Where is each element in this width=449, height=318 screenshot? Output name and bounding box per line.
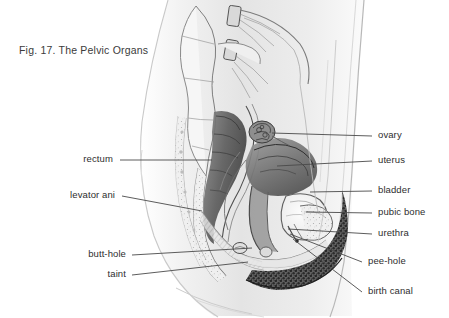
figure-title: Fig. 17. The Pelvic Organs [19,44,148,56]
anus-marker [233,243,247,254]
label-uterus: uterus [378,154,405,165]
vaginal-opening-marker [260,247,272,257]
label-taint: taint [0,268,126,279]
label-pubic-bone: pubic bone [378,206,425,217]
label-urethra: urethra [378,227,409,238]
label-ovary: ovary [378,129,402,140]
label-birth-canal: birth canal [368,285,413,296]
label-pee-hole: pee-hole [368,255,406,266]
pee-hole-marker [295,239,299,243]
label-bladder: bladder [378,184,410,195]
label-rectum: rectum [0,153,113,164]
figure-container: Fig. 17. The Pelvic Organs rectumlevator… [0,0,449,318]
label-levator-ani: levator ani [0,189,115,200]
label-butt-hole: butt-hole [0,248,126,259]
